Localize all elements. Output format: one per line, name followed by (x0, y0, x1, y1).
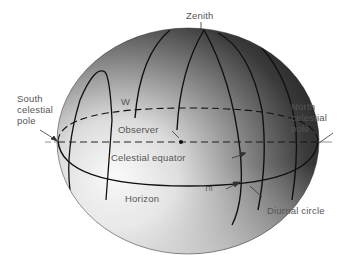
label-celestial-equator: Celestial equator (111, 152, 186, 163)
observer-point (179, 140, 183, 144)
sphere-svg (0, 0, 349, 270)
label-horizon: Horizon (125, 193, 159, 204)
celestial-sphere-diagram: Zenith South celestial pole North celest… (0, 0, 349, 270)
label-north-celestial-pole: North celestial pole (291, 101, 327, 134)
label-east: E (204, 185, 215, 192)
label-south-celestial-pole: South celestial pole (17, 93, 53, 126)
label-zenith: Zenith (186, 10, 214, 21)
label-west: W (121, 96, 130, 107)
label-diurnal-circle: Diurnal circle (267, 205, 325, 216)
label-observer: Observer (118, 124, 159, 135)
